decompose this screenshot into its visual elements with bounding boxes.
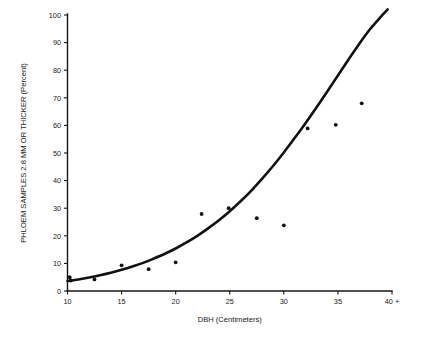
data-point: [282, 223, 286, 227]
y-axis-title: PHLOEM SAMPLES 2.8 MM OR THICKER (Percen…: [19, 63, 28, 243]
y-tick-label: 40: [53, 176, 61, 185]
fitted-trend-curve: [68, 9, 388, 281]
y-tick-label: 80: [53, 66, 61, 75]
x-tick-label: 10: [63, 297, 71, 306]
data-point: [200, 212, 204, 216]
y-tick-label: 70: [53, 94, 61, 103]
x-tick-label: 35: [334, 297, 342, 306]
data-point: [255, 216, 259, 220]
data-point: [68, 275, 72, 279]
y-tick-label: 60: [53, 121, 61, 130]
data-point: [227, 206, 231, 210]
y-tick-label: 20: [53, 232, 61, 241]
data-point: [306, 127, 310, 131]
y-axis-ticks: 0102030405060708090100: [49, 11, 68, 296]
y-tick-label: 100: [49, 11, 61, 20]
y-tick-label: 10: [53, 259, 61, 268]
data-point: [360, 101, 364, 105]
x-axis-ticks: 10152025303540 +: [63, 291, 399, 306]
y-tick-label: 0: [57, 287, 61, 296]
scatter-plot: 0102030405060708090100 10152025303540 + …: [0, 0, 423, 338]
data-point: [69, 279, 73, 283]
y-tick-label: 90: [53, 38, 61, 47]
data-point: [174, 260, 178, 264]
data-point: [334, 123, 338, 127]
x-tick-label: 25: [226, 297, 234, 306]
data-point: [120, 263, 124, 267]
x-tick-label: 15: [118, 297, 126, 306]
chart-container: 0102030405060708090100 10152025303540 + …: [0, 0, 423, 338]
data-points-group: [68, 101, 364, 282]
x-tick-label: 20: [172, 297, 180, 306]
data-point: [93, 278, 97, 282]
x-tick-label: 40 +: [385, 297, 399, 306]
y-tick-label: 50: [53, 149, 61, 158]
data-point: [147, 267, 151, 271]
x-tick-label: 30: [280, 297, 288, 306]
x-axis-title: DBH (Centimeters): [198, 315, 263, 324]
y-tick-label: 30: [53, 204, 61, 213]
